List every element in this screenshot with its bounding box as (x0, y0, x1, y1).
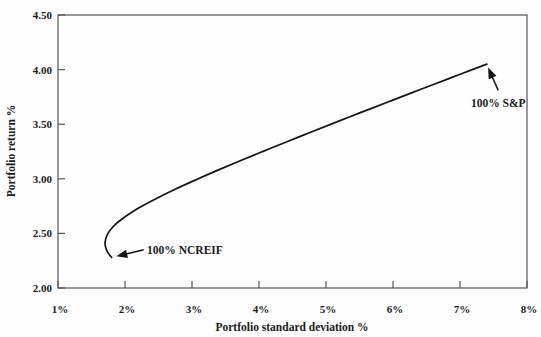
y-tick-label: 2.50 (33, 227, 53, 239)
x-tick-label: 3% (186, 303, 203, 315)
y-tick-label: 3.50 (33, 118, 53, 130)
x-tick-label: 7% (454, 303, 471, 315)
annotation-arrow-line (124, 250, 144, 255)
annotations: 100% S&P100% NCREIF (116, 67, 525, 258)
y-tick-label: 2.00 (33, 282, 53, 294)
x-tick-label: 6% (387, 303, 404, 315)
annotation-arrowhead (116, 250, 128, 258)
y-tick-label: 4.50 (33, 9, 53, 21)
plot-frame (58, 15, 527, 288)
annotation-label: 100% S&P (471, 97, 526, 109)
x-tick-label: 4% (253, 303, 270, 315)
y-tick-label: 3.00 (33, 173, 53, 185)
x-axis-title: Portfolio standard deviation % (215, 321, 368, 333)
axis-tick-labels: 1%2%3%4%5%6%7%8%2.002.503.003.504.004.50 (33, 9, 538, 315)
y-axis-title: Portfolio return % (5, 105, 17, 197)
efficient-frontier-figure: 1%2%3%4%5%6%7%8%2.002.503.003.504.004.50… (0, 0, 541, 337)
y-tick-label: 4.00 (33, 64, 53, 76)
x-tick-label: 2% (119, 303, 136, 315)
annotation-label: 100% NCREIF (147, 244, 223, 256)
axis-ticks (58, 15, 527, 288)
chart-canvas: 1%2%3%4%5%6%7%8%2.002.503.003.504.004.50… (0, 0, 541, 337)
x-tick-label: 8% (521, 303, 538, 315)
annotation-arrowhead (488, 67, 496, 79)
x-tick-label: 1% (52, 303, 69, 315)
x-tick-label: 5% (320, 303, 337, 315)
efficient-frontier-curve (105, 64, 487, 257)
